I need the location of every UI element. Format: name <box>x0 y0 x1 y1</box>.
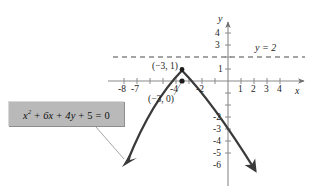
x-tick-label-neg7: -7 <box>131 85 139 95</box>
y-tick-label-neg4: -4 <box>213 137 221 147</box>
y-tick-label-4: 4 <box>215 29 220 39</box>
vertex-point-label: (−3, 1) <box>152 62 178 72</box>
line-label-y-equals-2: y = 2 <box>255 43 276 53</box>
y-tick-label-neg6: -6 <box>213 161 221 171</box>
y-tick-label-1: 1 <box>218 65 223 75</box>
equation-callout-box: x2 + 6x + 4y + 5 = 0 <box>8 101 124 126</box>
parabola-curve <box>128 71 255 171</box>
y-tick-label-neg3: -3 <box>213 125 221 135</box>
x-tick-label-4: 4 <box>277 85 282 95</box>
x-tick-label-3: 3 <box>264 85 269 95</box>
equation-text: x2 + 6x + 4y + 5 = 0 <box>23 108 110 121</box>
x-tick-label-2: 2 <box>251 85 256 95</box>
y-tick-label-3: 3 <box>215 41 220 51</box>
y-axis-label: y <box>218 14 222 24</box>
x-point-label: (−3, 0) <box>148 95 174 105</box>
x-tick-label-neg8: -8 <box>118 85 126 95</box>
x-tick-label-1: 1 <box>238 85 243 95</box>
y-tick-label-neg5: -5 <box>213 149 221 159</box>
x-point-marker <box>179 78 184 83</box>
callout-leader-line <box>96 127 124 159</box>
x-tick-label-neg2: -2 <box>196 85 204 95</box>
y-tick-label-neg2: -2 <box>213 113 221 123</box>
parabola-figure: -8 -7 -4 -2 1 2 3 4 4 3 1 -2 -3 -4 -5 -6… <box>0 0 313 194</box>
x-axis-label: x <box>295 86 299 96</box>
vertex-point-marker <box>180 67 185 72</box>
